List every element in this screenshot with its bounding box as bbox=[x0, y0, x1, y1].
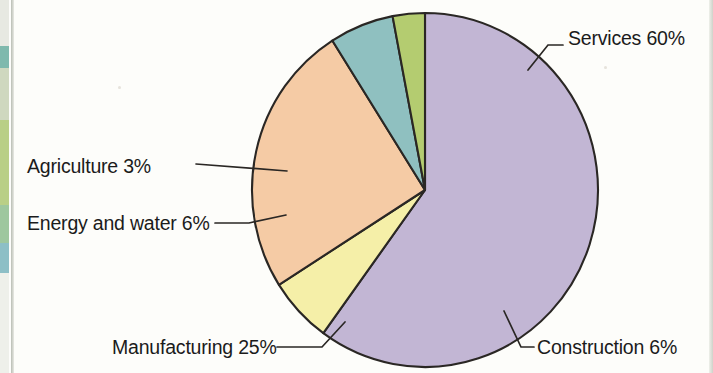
pie-label-services: Services 60% bbox=[568, 27, 685, 50]
pie-chart-svg bbox=[0, 0, 713, 373]
pie-label-manufacturing: Manufacturing 25% bbox=[112, 336, 277, 359]
pie-chart: Services 60% Agriculture 3% Energy and w… bbox=[0, 0, 713, 373]
pie-label-energy: Energy and water 6% bbox=[27, 212, 210, 235]
chart-page: Services 60% Agriculture 3% Energy and w… bbox=[0, 0, 713, 373]
pie-label-agriculture: Agriculture 3% bbox=[27, 155, 151, 178]
pie-slices bbox=[252, 13, 598, 367]
pie-label-construction: Construction 6% bbox=[537, 336, 677, 359]
